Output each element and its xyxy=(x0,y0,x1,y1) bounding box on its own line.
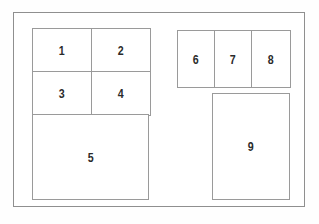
region-cell-9[interactable]: 9 xyxy=(212,93,290,200)
strip-block-678: 6 7 8 xyxy=(177,30,289,87)
region-cell-8[interactable]: 8 xyxy=(251,30,291,88)
region-label-3: 3 xyxy=(59,87,65,100)
region-cell-6[interactable]: 6 xyxy=(177,30,215,88)
region-label-2: 2 xyxy=(118,44,124,57)
region-label-5: 5 xyxy=(88,151,94,164)
grid-block-1234: 1 2 3 4 xyxy=(32,28,149,114)
region-cell-1[interactable]: 1 xyxy=(32,28,92,72)
region-label-9: 9 xyxy=(248,140,254,153)
region-cell-7[interactable]: 7 xyxy=(214,30,252,88)
right-group: 6 7 8 9 xyxy=(177,30,289,200)
region-label-7: 7 xyxy=(230,53,236,66)
region-cell-5[interactable]: 5 xyxy=(32,114,149,200)
region-cell-4[interactable]: 4 xyxy=(91,71,151,116)
left-group: 1 2 3 4 5 xyxy=(32,28,149,200)
region-cell-2[interactable]: 2 xyxy=(91,28,151,72)
region-label-6: 6 xyxy=(193,53,199,66)
region-label-4: 4 xyxy=(118,87,124,100)
region-cell-3[interactable]: 3 xyxy=(32,71,92,116)
region-label-8: 8 xyxy=(268,53,274,66)
outer-page-frame: 1 2 3 4 5 6 7 8 xyxy=(13,12,305,207)
region-label-1: 1 xyxy=(59,44,65,57)
